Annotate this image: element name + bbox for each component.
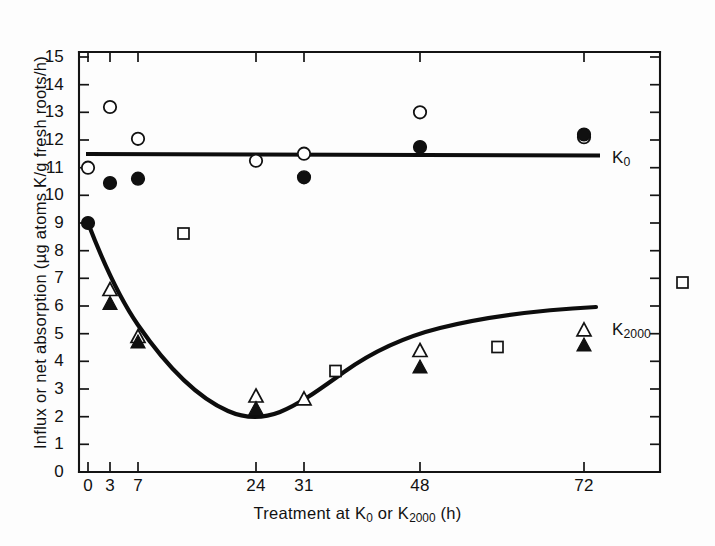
series-k2000-influx-markers — [103, 283, 591, 405]
data-point-open-square — [492, 342, 503, 353]
y-axis-title: Influx or net absorption (µg atoms K/g f… — [31, 33, 50, 473]
axis-frame — [79, 52, 660, 472]
data-point-filled-circle — [104, 177, 117, 190]
chart-plot-area — [0, 0, 715, 546]
x-axis-title-pre: Treatment at K — [253, 504, 366, 522]
trendline-k0 — [86, 154, 600, 156]
data-point-filled-circle — [82, 217, 95, 230]
series-annotation-k0: K0 — [612, 148, 630, 169]
series-annotation-k2000: K2000 — [612, 320, 651, 341]
data-point-filled-circle — [298, 171, 311, 184]
data-point-filled-circle — [578, 128, 591, 141]
data-point-open-triangle — [577, 323, 591, 336]
data-point-filled-triangle — [249, 402, 263, 415]
series-k0-influx-markers — [82, 101, 590, 174]
x-axis-title-post: (h) — [436, 504, 462, 522]
x-axis-title-sub-0: 0 — [366, 511, 373, 525]
x-tick-label: 48 — [400, 476, 440, 496]
x-tick-label: 31 — [284, 476, 324, 496]
data-point-open-triangle — [249, 389, 263, 402]
data-point-open-square — [677, 277, 688, 288]
series-annotation-k0-sub: 0 — [624, 155, 631, 169]
y-axis-ticks-left — [79, 57, 89, 472]
data-point-open-circle — [104, 101, 116, 113]
x-tick-label: 72 — [564, 476, 604, 496]
data-point-filled-triangle — [103, 296, 117, 309]
figure-container: 15 14 13 12 11 10 9 8 7 6 5 4 3 2 1 0 0 … — [0, 0, 715, 546]
data-point-open-square — [178, 228, 189, 239]
data-point-filled-triangle — [413, 360, 427, 373]
series-annotation-k2000-base: K — [612, 320, 624, 339]
trendline-k2000 — [88, 223, 596, 417]
data-point-open-triangle — [413, 344, 427, 357]
data-point-open-circle — [82, 162, 94, 174]
x-axis-ticks-top — [88, 52, 584, 62]
x-axis-ticks-bottom — [88, 462, 584, 472]
x-axis-title: Treatment at K0 or K2000 (h) — [0, 504, 715, 525]
y-axis-ticks-right — [650, 57, 660, 472]
data-point-filled-triangle — [577, 338, 591, 351]
data-point-filled-circle — [132, 172, 145, 185]
x-tick-label: 24 — [236, 476, 276, 496]
x-tick-label: 7 — [118, 476, 158, 496]
data-point-open-circle — [250, 155, 262, 167]
data-point-filled-circle — [414, 141, 427, 154]
data-point-open-circle — [414, 106, 426, 118]
series-k0-net-markers — [82, 128, 591, 229]
data-point-open-circle — [132, 133, 144, 145]
data-point-open-square — [330, 366, 341, 377]
series-open-square-markers — [178, 228, 688, 377]
series-annotation-k2000-sub: 2000 — [624, 327, 651, 341]
x-axis-title-sub-2000: 2000 — [409, 511, 435, 525]
data-point-open-circle — [298, 148, 310, 160]
x-axis-title-mid: or K — [373, 504, 409, 522]
series-annotation-k0-base: K — [612, 148, 624, 167]
